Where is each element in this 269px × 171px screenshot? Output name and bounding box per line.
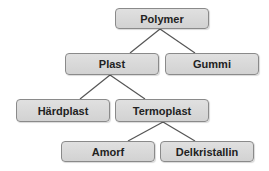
node-label: Gummi [193, 58, 231, 70]
node-label: Härdplast [38, 105, 89, 117]
node-label: Termoplast [133, 105, 191, 117]
edge-termoplast-amorf [128, 122, 163, 141]
edge-termoplast-delkristallin [163, 122, 195, 141]
node-termoplast: Termoplast [115, 99, 209, 122]
node-amorf: Amorf [61, 141, 155, 162]
node-label: Amorf [92, 146, 124, 158]
edge-polymer-plast [130, 29, 160, 53]
node-gummi: Gummi [165, 53, 259, 75]
edge-plast-termoplast [110, 75, 145, 99]
node-polymer: Polymer [115, 8, 209, 29]
polymer-classification-tree: Polymer Plast Gummi Härdplast Termoplast… [0, 0, 269, 171]
node-delkristallin: Delkristallin [160, 141, 254, 162]
node-label: Polymer [140, 13, 183, 25]
node-label: Delkristallin [176, 146, 238, 158]
edge-plast-hardplast [80, 75, 110, 99]
node-plast: Plast [65, 53, 159, 75]
edge-polymer-gummi [160, 29, 195, 53]
node-label: Plast [99, 58, 125, 70]
node-hardplast: Härdplast [16, 99, 110, 122]
